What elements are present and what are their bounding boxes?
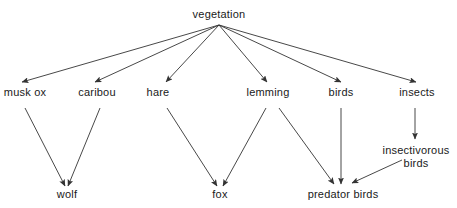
node-birds: birds xyxy=(329,86,354,99)
arrow-vegetation-to-musk-ox xyxy=(22,25,219,82)
node-musk-ox: musk ox xyxy=(4,86,46,99)
food-web-arrows xyxy=(0,0,457,208)
arrow-lemming-to-predator-birds xyxy=(279,108,334,184)
node-insects: insects xyxy=(399,86,435,99)
node-hare: hare xyxy=(147,86,170,99)
arrow-vegetation-to-lemming xyxy=(219,25,267,82)
arrow-caribou-to-wolf xyxy=(68,108,100,186)
arrow-vegetation-to-birds xyxy=(219,25,341,82)
node-insectivorous-birds-line2: birds xyxy=(383,157,450,170)
node-lemming: lemming xyxy=(247,86,290,99)
arrow-musk-ox-to-wolf xyxy=(25,108,65,186)
arrow-vegetation-to-insects xyxy=(219,25,416,82)
food-web-diagram: vegetation musk ox caribou hare lemming … xyxy=(0,0,457,208)
node-insectivorous-birds-line1: insectivorous xyxy=(383,144,450,157)
node-fox: fox xyxy=(212,188,227,201)
node-predator-birds: predator birds xyxy=(308,188,379,201)
arrow-hare-to-fox xyxy=(167,108,217,186)
arrow-vegetation-to-caribou xyxy=(95,25,219,82)
node-wolf: wolf xyxy=(57,188,77,201)
arrow-lemming-to-fox xyxy=(223,108,266,186)
node-caribou: caribou xyxy=(78,86,115,99)
node-vegetation: vegetation xyxy=(193,8,246,21)
node-insectivorous-birds: insectivorous birds xyxy=(383,144,450,170)
arrow-vegetation-to-hare xyxy=(166,25,219,82)
